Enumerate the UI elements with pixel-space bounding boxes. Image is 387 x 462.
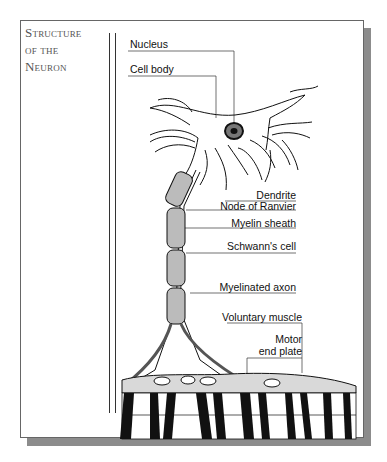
neuron-illustration	[0, 0, 387, 462]
label-schwanns-cell: Schwann's cell	[227, 240, 296, 252]
label-voluntary-muscle: Voluntary muscle	[222, 311, 302, 323]
label-node-of-ranvier: Node of Ranvier	[220, 200, 296, 212]
label-motor-end-plate-1: Motor	[275, 333, 302, 345]
label-motor-end-plate-2: end plate	[259, 345, 302, 357]
leader-lines	[128, 51, 302, 375]
label-myelinated-axon: Myelinated axon	[220, 281, 296, 293]
label-nucleus: Nucleus	[130, 38, 168, 50]
voluntary-muscle-fibers	[120, 393, 356, 439]
label-myelin-sheath: Myelin sheath	[231, 217, 296, 229]
label-cell-body: Cell body	[130, 63, 174, 75]
